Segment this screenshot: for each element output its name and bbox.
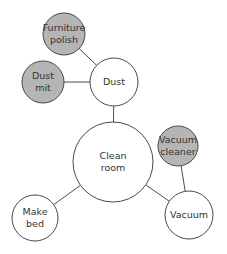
node-label: Furniture: [43, 22, 86, 33]
node-clean-room: Cleanroom: [73, 122, 153, 202]
node-label: Dust: [32, 70, 54, 81]
node-dust-mit: Dustmit: [22, 61, 64, 103]
node-make-bed: Makebed: [12, 195, 58, 241]
edge-vacuum-cleaner-to-vacuum: [181, 166, 185, 192]
node-label: Make: [22, 206, 47, 217]
node-dust: Dust: [90, 58, 138, 106]
node-label: mit: [35, 82, 51, 93]
node-label: room: [101, 162, 126, 173]
edge-clean-room-to-make-bed: [54, 185, 81, 204]
node-label: Vacuum: [159, 134, 197, 145]
node-vacuum: Vacuum: [165, 191, 213, 239]
node-label: bed: [26, 218, 44, 229]
nodes-group: FurniturepolishDustmitDustCleanroomVacuu…: [12, 13, 213, 241]
node-furniture-polish: Furniturepolish: [43, 13, 86, 55]
edge-clean-room-to-vacuum: [146, 185, 170, 201]
edge-furniture-polish-to-dust: [79, 49, 97, 66]
node-label: cleaner: [160, 146, 195, 157]
node-label: Clean: [100, 150, 127, 161]
node-label: Vacuum: [170, 209, 208, 220]
node-label: polish: [50, 34, 78, 45]
mind-map-diagram: FurniturepolishDustmitDustCleanroomVacuu…: [0, 0, 227, 254]
node-label: Dust: [103, 76, 125, 87]
node-vacuum-cleaner: Vacuumcleaner: [158, 126, 198, 166]
